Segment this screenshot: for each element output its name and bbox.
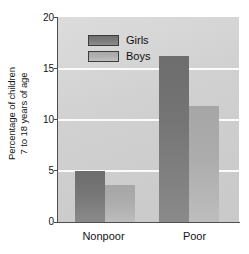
- bar-poor-boys: [189, 106, 219, 222]
- y-tick-label-5: 5: [32, 166, 54, 176]
- y-tick-label-20: 20: [32, 13, 54, 23]
- legend: Girls Boys: [88, 33, 150, 65]
- gridline-15: [58, 68, 239, 70]
- legend-entry-girls: Girls: [88, 33, 150, 47]
- bar-chart-figure: Percentage of children 7 to 18 years of …: [0, 0, 249, 254]
- legend-label-girls: Girls: [126, 35, 149, 46]
- y-tick-label-10: 10: [32, 115, 54, 125]
- bar-nonpoor-girls: [75, 171, 105, 222]
- plot-area: Girls Boys: [58, 17, 239, 222]
- y-axis-title-line-2: 7 to 18 years of age: [17, 67, 29, 160]
- y-tick-label-15: 15: [32, 64, 54, 74]
- y-axis-tick-labels: 20 15 10 5 0: [30, 0, 54, 226]
- bar-nonpoor-boys: [105, 185, 135, 222]
- legend-entry-boys: Boys: [88, 49, 150, 63]
- bar-poor-girls: [159, 56, 189, 222]
- y-tick-label-0: 0: [32, 217, 54, 227]
- x-category-label-poor: Poor: [149, 230, 240, 242]
- x-category-label-nonpoor: Nonpoor: [58, 230, 149, 242]
- legend-swatch-girls-icon: [88, 35, 119, 46]
- y-axis-title: Percentage of children 7 to 18 years of …: [0, 0, 34, 226]
- legend-swatch-boys-icon: [88, 51, 119, 62]
- legend-label-boys: Boys: [126, 51, 150, 62]
- y-axis-title-line-1: Percentage of children: [6, 67, 18, 160]
- x-axis-line: [57, 222, 240, 223]
